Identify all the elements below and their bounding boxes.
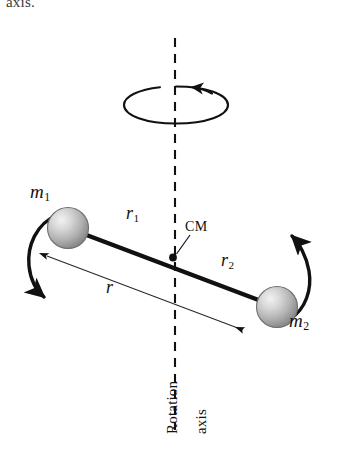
radius-total-symbol: r bbox=[106, 277, 113, 297]
rigid-rod bbox=[68, 228, 277, 307]
radius1-symbol: r bbox=[126, 203, 133, 223]
radius1-label: r1 bbox=[126, 203, 139, 224]
radius2-subscript: 2 bbox=[228, 259, 234, 271]
radius2-symbol: r bbox=[221, 250, 228, 270]
rotation-axis-label-line1: Rotation bbox=[164, 381, 181, 434]
mass2-symbol: m bbox=[289, 310, 303, 331]
mass2-label: m2 bbox=[289, 310, 309, 334]
mass1-label: m1 bbox=[30, 181, 50, 205]
mass1-sphere bbox=[48, 208, 89, 249]
radius2-label: r2 bbox=[221, 250, 234, 271]
mass1-symbol: m bbox=[30, 181, 44, 202]
cm-leader-line bbox=[177, 235, 191, 254]
radius-total-label: r bbox=[106, 277, 113, 298]
radius1-subscript: 1 bbox=[133, 212, 139, 224]
rotation-axis-label-line2: axis bbox=[193, 409, 210, 434]
mass2-subscript: 2 bbox=[303, 320, 309, 333]
rotation-diagram-figure: axis. bbox=[0, 0, 339, 466]
center-of-mass-label: CM bbox=[185, 219, 207, 235]
mass1-subscript: 1 bbox=[44, 191, 50, 204]
double-headed-measure-arrow bbox=[47, 256, 243, 330]
center-of-mass-dot bbox=[169, 254, 177, 262]
